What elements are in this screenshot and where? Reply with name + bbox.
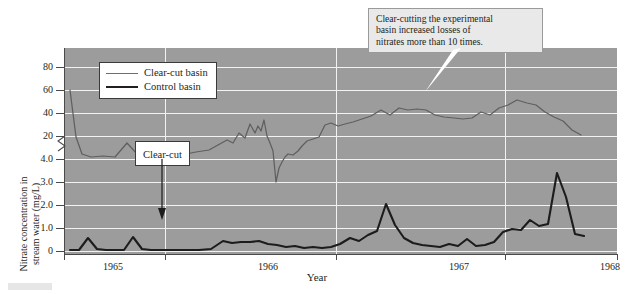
- y-tick-40: [56, 113, 64, 114]
- x-axis-title: Year: [0, 271, 634, 283]
- x-tick-1968: [617, 254, 618, 260]
- legend-label-clear-cut-basin: Clear-cut basin: [144, 67, 208, 79]
- callout-line-2: basin increased losses of: [376, 24, 471, 35]
- legend-item-control-basin: Control basin: [106, 80, 208, 94]
- y-tick-2.0: [56, 205, 64, 206]
- axis-break-icon: [56, 135, 72, 153]
- chart-legend: Clear-cut basin Control basin: [99, 62, 217, 99]
- callout-line-1: Clear-cutting the experimental: [376, 13, 493, 24]
- legend-label-control-basin: Control basin: [144, 81, 201, 93]
- y-tick-0: [56, 251, 64, 252]
- callout-annotation-text: Clear-cutting the experimental basin inc…: [376, 13, 536, 47]
- scan-artifact: [8, 283, 52, 290]
- callout-line-3: nitrates more than 10 times.: [376, 36, 483, 47]
- nitrate-concentration-chart: 0 1.0 2.0 3.0 4.0 20 40 60 80 Nitrate co…: [0, 0, 634, 294]
- y-tick-4.0: [56, 159, 64, 160]
- callout-leader-line: [425, 48, 465, 94]
- y-tick-1.0: [56, 228, 64, 229]
- x-tick-start: [64, 254, 65, 260]
- x-tick-1965: [165, 254, 166, 260]
- legend-item-clear-cut-basin: Clear-cut basin: [106, 66, 208, 80]
- x-tick-1967: [505, 254, 506, 260]
- y-tick-80: [56, 67, 64, 68]
- legend-swatch-control-basin: [106, 86, 138, 88]
- series-line-clear-cut-basin: [70, 90, 581, 182]
- y-tick-60: [56, 90, 64, 91]
- legend-swatch-clear-cut-basin: [106, 73, 138, 74]
- y-axis-title-line2: stream water (mg/L): [30, 183, 41, 265]
- callout-annotation-box: Clear-cutting the experimental basin inc…: [368, 8, 543, 53]
- x-tick-1966: [336, 254, 337, 260]
- y-tick-3.0: [56, 182, 64, 183]
- series-line-control-basin: [70, 173, 584, 250]
- down-arrow-icon: [155, 159, 169, 221]
- y-axis-title-wrap: Nitrate concentration in stream water (m…: [14, 60, 46, 250]
